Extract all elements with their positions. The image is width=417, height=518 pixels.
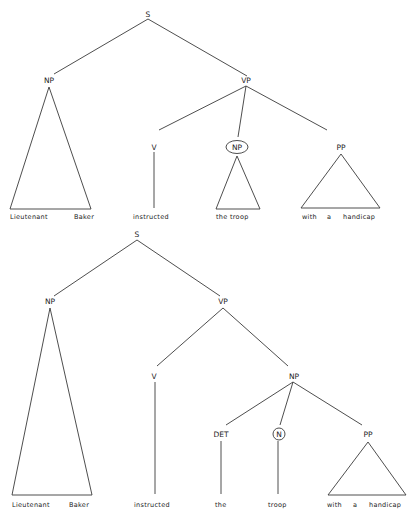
tree2-word-the: the — [215, 501, 227, 509]
tree1-word-lieutenant: Lieutenant — [10, 213, 48, 221]
tree2-np-triangle — [12, 308, 92, 495]
tree1-np-node: NP — [44, 76, 55, 85]
tree1-vp-node: VP — [241, 76, 251, 85]
tree2-det-node: DET — [213, 430, 229, 439]
tree2-word-troop: troop — [268, 501, 287, 509]
tree2-word-with: with — [327, 501, 342, 509]
syntax-tree-diagram: S NP Lieutenant Baker VP V instructed NP… — [0, 0, 417, 518]
tree2-np-node: NP — [45, 297, 56, 306]
tree1-word-instructed: instructed — [133, 213, 169, 221]
tree1-word-a: a — [327, 213, 331, 221]
tree2-word-handicap: handicap — [369, 501, 401, 509]
tree2-word-baker: Baker — [69, 501, 89, 509]
tree2-word-instructed: instructed — [134, 501, 170, 509]
tree2-v-node: V — [151, 372, 157, 381]
tree2-word-lieutenant: Lieutenant — [12, 501, 50, 509]
tree1-word-with: with — [302, 213, 317, 221]
tree1-pp-triangle — [301, 154, 380, 208]
tree2-pp-node: PP — [363, 430, 373, 439]
tree2-s-node: S — [135, 230, 140, 239]
tree-2: S NP Lieutenant Baker VP V instructed NP… — [12, 230, 406, 509]
tree2-word-a: a — [353, 501, 357, 509]
tree1-pp-node: PP — [336, 143, 346, 152]
tree1-word-handicap: handicap — [343, 213, 375, 221]
tree2-obj-np-node: NP — [289, 372, 300, 381]
tree2-n-node: N — [276, 430, 282, 439]
tree1-obj-np-triangle — [216, 156, 260, 209]
tree-1: S NP Lieutenant Baker VP V instructed NP… — [10, 10, 380, 221]
tree1-np-triangle — [10, 87, 91, 209]
tree2-vp-node: VP — [218, 297, 228, 306]
tree1-word-baker: Baker — [74, 213, 94, 221]
tree1-obj-np-node: NP — [232, 143, 243, 152]
tree1-s-node: S — [146, 10, 151, 19]
tree1-v-node: V — [151, 143, 157, 152]
tree1-word-the-troop: the troop — [216, 213, 249, 221]
tree2-pp-triangle — [328, 442, 406, 495]
